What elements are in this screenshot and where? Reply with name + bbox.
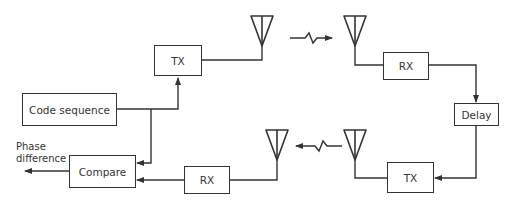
tx-remote-block: TX <box>387 162 434 193</box>
rx-remote-label: RX <box>399 60 414 72</box>
link-antenna-to-rx-local <box>229 160 277 180</box>
phase-difference-label: Phase difference <box>16 141 66 165</box>
code-sequence-label: Code sequence <box>29 104 110 116</box>
wireless-link-return <box>296 141 342 151</box>
tx-local-label: TX <box>171 55 185 67</box>
antenna-icon <box>344 130 366 160</box>
link-tx-remote-to-antenna <box>355 160 387 178</box>
phase-difference-line1: Phase <box>16 141 66 153</box>
link-tx-to-antenna <box>201 46 262 60</box>
link-rx-to-delay <box>428 65 476 102</box>
rx-remote-block: RX <box>383 52 429 80</box>
link-code-to-tx <box>116 78 178 109</box>
delay-label: Delay <box>461 109 491 121</box>
rx-local-block: RX <box>184 166 230 194</box>
antenna-icon <box>266 130 288 160</box>
antenna-icon <box>344 16 366 46</box>
code-sequence-block: Code sequence <box>22 93 117 126</box>
antenna-icon <box>251 16 273 46</box>
link-antenna-to-rx-remote <box>355 46 383 65</box>
rx-local-label: RX <box>200 174 215 186</box>
tx-local-block: TX <box>154 45 202 76</box>
phase-difference-line2: difference <box>16 153 66 165</box>
tx-remote-label: TX <box>404 172 418 184</box>
link-code-to-compare <box>137 109 151 163</box>
wireless-link-forward <box>290 33 332 43</box>
link-delay-to-tx-remote <box>435 125 476 178</box>
delay-block: Delay <box>454 103 499 126</box>
compare-label: Compare <box>79 166 127 178</box>
compare-block: Compare <box>69 155 136 188</box>
